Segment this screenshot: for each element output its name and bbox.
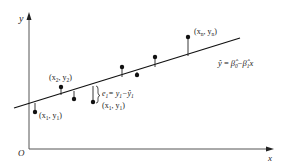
residual-label: e1= y1−ŷ1 bbox=[102, 89, 134, 99]
data-point bbox=[186, 35, 190, 39]
residual-brace-icon bbox=[96, 86, 100, 103]
data-point bbox=[72, 97, 76, 101]
data-point bbox=[59, 85, 63, 89]
y-axis-label: y bbox=[18, 13, 24, 24]
y-axis-arrow-icon bbox=[27, 12, 32, 20]
point-label-x2-y2: (x2, y2) bbox=[49, 73, 72, 83]
x-axis-arrow-icon bbox=[266, 147, 274, 152]
data-point bbox=[135, 73, 139, 77]
data-point bbox=[120, 65, 124, 69]
regression-diagram: y x O (x1, y1) (x2, y2) (x1, y1) (xn, yn… bbox=[0, 0, 284, 168]
point-label-xn-yn: (xn, yn) bbox=[194, 27, 217, 37]
x-axis-label: x bbox=[267, 153, 272, 163]
regression-equation: ŷ = β̂0−β̂1x bbox=[217, 58, 254, 69]
point-label-xi-yi: (x1, y1) bbox=[102, 101, 125, 111]
origin-label: O bbox=[18, 148, 25, 158]
data-point bbox=[91, 100, 95, 104]
diagram-canvas: y x O (x1, y1) (x2, y2) (x1, y1) (xn, yn… bbox=[0, 0, 284, 168]
data-point bbox=[153, 55, 157, 59]
data-point bbox=[33, 110, 37, 114]
point-label-x1-y1: (x1, y1) bbox=[39, 111, 62, 121]
